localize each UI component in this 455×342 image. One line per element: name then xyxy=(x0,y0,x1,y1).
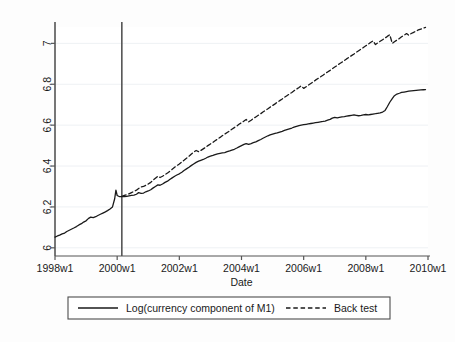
legend-label-2: Back test xyxy=(334,302,377,314)
legend-box: Log(currency component of M1)Back test xyxy=(68,297,390,319)
figure-container: 1998w12000w12002w12004w12006w12008w12010… xyxy=(0,0,455,342)
legend-label-1: Log(currency component of M1) xyxy=(126,302,275,314)
